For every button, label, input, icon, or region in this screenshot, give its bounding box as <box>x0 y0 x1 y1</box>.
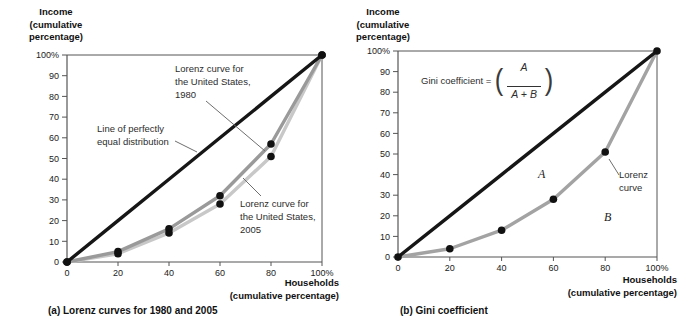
svg-text:20: 20 <box>49 216 59 226</box>
svg-text:40: 40 <box>497 263 507 273</box>
svg-text:30: 30 <box>49 195 59 205</box>
fraction-numerator: A <box>507 61 541 73</box>
svg-text:100%: 100% <box>310 268 333 278</box>
svg-text:70: 70 <box>49 112 59 122</box>
svg-text:60: 60 <box>380 129 390 139</box>
svg-text:50: 50 <box>49 154 59 164</box>
svg-text:80: 80 <box>600 263 610 273</box>
x-axis-title: Households (cumulative percentage) <box>568 274 677 299</box>
svg-text:0: 0 <box>64 268 69 278</box>
gini-formula-text: Gini coefficient = <box>421 75 491 86</box>
svg-text:40: 40 <box>380 170 390 180</box>
annotation-area-a: A <box>538 167 545 182</box>
svg-text:60: 60 <box>49 133 59 143</box>
annotation-area-b: B <box>604 210 611 225</box>
svg-text:80: 80 <box>266 268 276 278</box>
lorenz-gini-figure: 0102030405060708090100%020406080100% Inc… <box>0 0 686 336</box>
x-axis-title: Households (cumulative percentage) <box>230 277 339 302</box>
svg-text:20: 20 <box>445 263 455 273</box>
open-paren: ( <box>495 65 504 95</box>
svg-text:90: 90 <box>49 71 59 81</box>
annotation-lorenz-1980: Lorenz curve for the United States, 1980 <box>175 62 251 101</box>
svg-text:0: 0 <box>385 252 390 262</box>
annotation-lorenz-2005: Lorenz curve for the United States, 2005 <box>240 197 316 236</box>
svg-text:100%: 100% <box>36 50 59 60</box>
panel-lorenz-curves: 0102030405060708090100%020406080100% Inc… <box>0 0 343 336</box>
svg-text:10: 10 <box>380 232 390 242</box>
svg-text:50: 50 <box>380 149 390 159</box>
svg-text:30: 30 <box>380 190 390 200</box>
svg-text:100%: 100% <box>645 263 668 273</box>
y-axis-title: Income (cumulative percentage) <box>343 6 423 44</box>
annotation-equal-distribution: Line of perfectly equal distribution <box>97 122 169 148</box>
svg-text:80: 80 <box>49 92 59 102</box>
svg-text:60: 60 <box>548 263 558 273</box>
gini-formula: Gini coefficient = ( A A + B ) <box>421 62 554 98</box>
svg-text:40: 40 <box>49 174 59 184</box>
svg-text:100%: 100% <box>367 46 390 56</box>
svg-text:80: 80 <box>380 87 390 97</box>
panel-gini-coefficient: 0102030405060708090100%020406080100% Inc… <box>343 0 686 336</box>
svg-text:20: 20 <box>113 268 123 278</box>
annotation-lorenz-curve: Lorenz curve <box>619 168 648 194</box>
svg-text:10: 10 <box>49 237 59 247</box>
close-paren: ) <box>545 65 554 95</box>
y-axis-title: Income (cumulative percentage) <box>8 6 104 44</box>
caption-a: (a) Lorenz curves for 1980 and 2005 <box>48 305 218 316</box>
caption-b: (b) Gini coefficient <box>400 305 488 316</box>
svg-text:20: 20 <box>380 211 390 221</box>
svg-text:70: 70 <box>380 108 390 118</box>
svg-text:90: 90 <box>380 67 390 77</box>
svg-text:40: 40 <box>164 268 174 278</box>
svg-text:60: 60 <box>215 268 225 278</box>
svg-text:0: 0 <box>54 257 59 267</box>
gini-fraction: A A + B <box>507 49 541 112</box>
svg-text:0: 0 <box>395 263 400 273</box>
fraction-denominator: A + B <box>507 86 541 100</box>
